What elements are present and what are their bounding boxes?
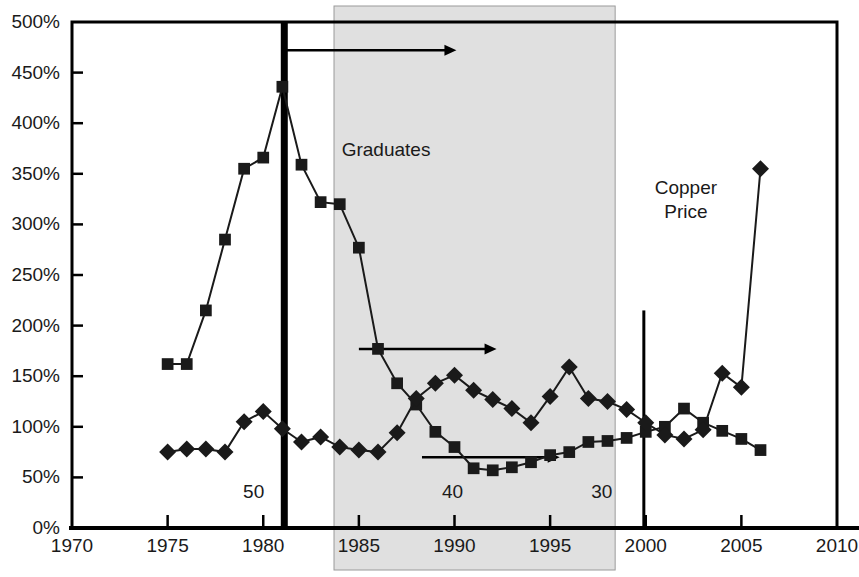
data-point-square <box>200 305 212 317</box>
shaded-region <box>334 6 615 570</box>
y-tick-label: 350% <box>11 163 60 184</box>
data-point-square <box>334 198 346 210</box>
y-tick-label: 50% <box>22 466 60 487</box>
y-tick-label: 400% <box>11 112 60 133</box>
data-point-diamond <box>618 401 635 418</box>
x-tick-label: 1985 <box>338 535 380 556</box>
data-point-square <box>678 403 690 415</box>
y-tick-label: 500% <box>11 11 60 32</box>
x-tick-label: 2000 <box>625 535 667 556</box>
data-point-diamond <box>752 160 769 177</box>
y-tick-label: 300% <box>11 213 60 234</box>
data-point-square <box>277 81 289 93</box>
data-point-square <box>353 242 365 254</box>
data-point-square <box>621 432 633 444</box>
chart-canvas: 0%50%100%150%200%250%300%350%400%450%500… <box>0 0 859 577</box>
data-point-diamond <box>217 444 234 461</box>
y-tick-label: 150% <box>11 365 60 386</box>
data-point-square <box>506 461 518 473</box>
x-tick-label: 2010 <box>816 535 858 556</box>
data-point-diamond <box>236 413 253 430</box>
data-point-square <box>487 464 499 476</box>
data-point-diamond <box>733 379 750 396</box>
series-label-graduates: Graduates <box>342 139 431 160</box>
data-point-square <box>563 446 575 458</box>
data-point-diamond <box>637 414 654 431</box>
data-point-square <box>583 436 595 448</box>
data-point-square <box>181 358 193 370</box>
data-point-square <box>296 159 308 171</box>
data-point-diamond <box>676 430 693 447</box>
data-point-square <box>716 425 728 437</box>
data-point-square <box>468 462 480 474</box>
data-point-square <box>257 152 269 164</box>
data-point-diamond <box>197 441 214 458</box>
data-point-square <box>449 441 461 453</box>
data-point-diamond <box>178 441 195 458</box>
data-point-square <box>162 358 174 370</box>
x-tick-label: 1980 <box>242 535 284 556</box>
data-point-diamond <box>312 428 329 445</box>
data-point-square <box>736 433 748 445</box>
copper-price-graduates-chart: 0%50%100%150%200%250%300%350%400%450%500… <box>0 0 859 577</box>
data-point-square <box>602 435 614 447</box>
data-point-square <box>219 234 231 246</box>
data-point-square <box>525 456 537 468</box>
x-tick-label: 1995 <box>529 535 571 556</box>
data-point-square <box>755 444 767 456</box>
x-tick-label: 1970 <box>51 535 93 556</box>
data-point-square <box>372 343 384 355</box>
data-point-diamond <box>695 421 712 438</box>
x-tick-label: 1975 <box>146 535 188 556</box>
data-point-square <box>391 377 403 389</box>
annot-30: 30 <box>591 481 612 502</box>
data-point-square <box>430 426 442 438</box>
x-tick-label: 1990 <box>433 535 475 556</box>
y-tick-label: 100% <box>11 416 60 437</box>
data-point-square <box>544 449 556 461</box>
annot-50: 50 <box>243 481 264 502</box>
y-tick-label: 200% <box>11 315 60 336</box>
data-point-diamond <box>714 365 731 382</box>
data-point-square <box>315 196 327 208</box>
y-tick-label: 250% <box>11 264 60 285</box>
data-point-square <box>238 163 250 175</box>
series-label-copper-price: CopperPrice <box>655 177 718 222</box>
data-point-diamond <box>159 444 176 461</box>
data-point-diamond <box>293 433 310 450</box>
annot-40: 40 <box>442 481 463 502</box>
x-tick-label: 2005 <box>720 535 762 556</box>
y-tick-label: 450% <box>11 62 60 83</box>
